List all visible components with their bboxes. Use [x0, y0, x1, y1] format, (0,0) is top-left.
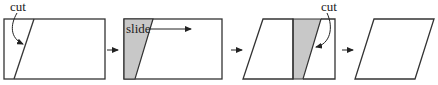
- cut-line: [14, 19, 34, 79]
- cut-label: cut: [10, 0, 26, 14]
- step-1-rectangle-with-cut: cut: [4, 0, 105, 79]
- step-4-parallelogram: [355, 19, 434, 79]
- cut-label: cut: [321, 0, 337, 14]
- parallelogram: [355, 19, 434, 79]
- parallelogram-left-part: [243, 19, 293, 79]
- rectangle: [4, 19, 105, 79]
- cut-and-slide-diagram: cut slide cut: [0, 0, 438, 85]
- step-3-moved-piece: cut: [243, 0, 337, 79]
- step-2-slide-piece: slide: [124, 19, 222, 79]
- shaded-moved-piece: [293, 19, 321, 79]
- slide-label: slide: [126, 21, 151, 36]
- cut-pointer-arrow-icon: [12, 13, 23, 44]
